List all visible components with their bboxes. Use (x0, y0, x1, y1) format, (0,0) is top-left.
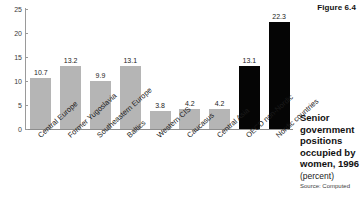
y-axis-tick-mark (25, 33, 28, 34)
bar-value-label: 13.2 (64, 57, 78, 64)
y-axis-tick-label: 0 (0, 126, 22, 133)
y-axis-tick-mark (25, 105, 28, 106)
y-axis-tick-mark (25, 9, 28, 10)
y-axis-tick-label: 10 (0, 78, 22, 85)
y-axis-tick-label: 15 (0, 54, 22, 61)
bar-value-label: 3.8 (155, 102, 165, 109)
y-axis-tick-mark (25, 57, 28, 58)
bar-value-label: 9.9 (96, 72, 106, 79)
y-axis-tick-mark (25, 81, 28, 82)
bar-chart: 10.713.29.913.13.84.24.213.122.3 Central… (0, 0, 300, 213)
y-axis-tick-label: 20 (0, 30, 22, 37)
bar-value-label: 4.2 (215, 100, 225, 107)
caption-title: Senior government positions occupied by … (300, 112, 360, 170)
figure-number: Figure 6.4 (317, 3, 356, 12)
caption-block: Senior government positions occupied by … (300, 112, 360, 190)
y-axis-tick-label: 5 (0, 102, 22, 109)
bar-value-label: 10.7 (34, 69, 48, 76)
bar-value-label: 13.1 (243, 57, 257, 64)
bar-value-label: 13.1 (123, 57, 137, 64)
caption-unit: (percent) (300, 171, 360, 182)
y-axis-tick-mark (25, 129, 28, 130)
caption-source: Source: Computed (300, 183, 360, 190)
y-axis-tick-label: 25 (0, 6, 22, 13)
bar-value-label: 22.3 (272, 13, 286, 20)
